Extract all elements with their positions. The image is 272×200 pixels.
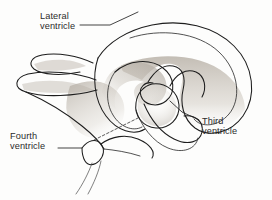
ventricle-diagram: Lateral ventricle Third ventricle Fourth… [0, 0, 272, 200]
label-fourth-ventricle-line2: ventricle [10, 141, 45, 151]
fourth-ventricle-roof [101, 136, 153, 158]
label-third-ventricle-line1: Third [202, 116, 223, 126]
leader-lateral-ventricle [80, 12, 138, 25]
shade-third-ventricle [138, 87, 177, 126]
shade-upper-horn [34, 60, 86, 71]
figure-canvas: Lateral ventricle Third ventricle Fourth… [0, 0, 272, 200]
label-lateral-ventricle-line2: ventricle [40, 21, 75, 31]
central-canal-right [88, 161, 101, 194]
label-lateral-ventricle-line1: Lateral [40, 11, 69, 21]
fourth-ventricle-link [104, 149, 140, 156]
central-canal-left [76, 163, 92, 194]
label-third-ventricle-line2: ventricle [202, 126, 237, 136]
label-fourth-ventricle-line1: Fourth [10, 131, 37, 141]
